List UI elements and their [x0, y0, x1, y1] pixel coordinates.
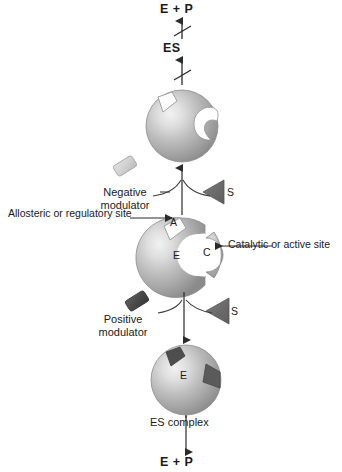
positive-modulator-label-line1: Positive	[104, 313, 143, 325]
negative-modulator-shape	[112, 155, 137, 177]
es-complex-label: ES complex	[150, 416, 209, 429]
substrate-triangle-lower	[206, 298, 229, 324]
positive-modulator-shape	[124, 290, 149, 312]
substrate-upper-label: S	[227, 186, 234, 198]
allosteric-enzyme-diagram: E + P ES Negative modulator S Allosteric…	[0, 0, 342, 472]
arrow-es-to-products	[174, 21, 191, 39]
es-intermediate-label: ES	[163, 41, 181, 55]
binding-arcs-lower	[158, 292, 212, 340]
allosteric-site-label: Allosteric or regulatory site	[8, 207, 132, 219]
negative-modulator-label-line1: Negative	[103, 186, 146, 198]
enzyme-letter-bottom: E	[180, 369, 187, 381]
substrate-triangle-upper	[203, 180, 224, 204]
allosteric-site-letter: A	[170, 216, 177, 228]
substrate-lower-label: S	[231, 305, 238, 317]
positive-modulator-label-line2: modulator	[99, 326, 148, 338]
arrow-enzyme-to-es	[174, 60, 191, 85]
products-bottom-label: E + P	[160, 455, 193, 469]
catalytic-site-label: Catalytic or active site	[228, 238, 330, 250]
enzyme-distorted-sphere	[146, 90, 218, 162]
catalytic-site-letter: C	[203, 246, 211, 258]
enzyme-letter-middle: E	[173, 249, 180, 261]
products-top-label: E + P	[160, 2, 193, 16]
positive-modulator-label: Positive modulator	[83, 313, 163, 338]
diagram-canvas	[0, 0, 342, 472]
